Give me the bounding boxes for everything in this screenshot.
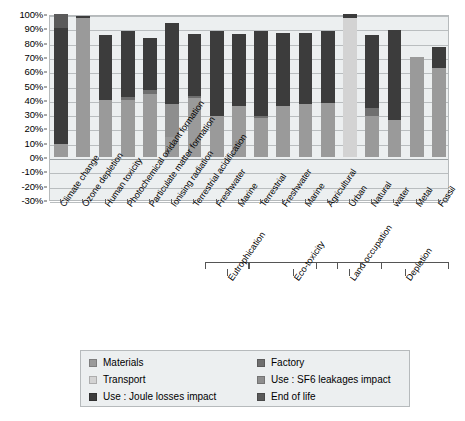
bar-stack bbox=[54, 14, 68, 200]
bar-segment bbox=[432, 68, 446, 157]
x-axis-tick-mark bbox=[82, 199, 83, 203]
x-axis-tick-mark bbox=[105, 199, 106, 203]
legend-item: Use : SF6 leakages impact bbox=[257, 374, 391, 385]
stacked-bar-chart: 100%90%80%70%60%50%40%30%20%10%0%-10%-20… bbox=[0, 0, 465, 421]
x-axis-tick-mark bbox=[349, 199, 350, 203]
bar-segment bbox=[254, 31, 268, 115]
bar-segment bbox=[343, 14, 357, 18]
bar-segment bbox=[388, 30, 402, 120]
bar-segment bbox=[343, 18, 357, 157]
bar-segment bbox=[143, 94, 157, 157]
y-axis-tick-mark bbox=[44, 15, 47, 16]
y-axis-tick-label: 30% bbox=[25, 110, 43, 120]
x-axis-tick-mark bbox=[393, 199, 394, 203]
y-axis-tick-mark bbox=[44, 186, 47, 187]
bar-stack bbox=[321, 14, 335, 200]
legend-swatch-icon bbox=[257, 393, 265, 401]
x-axis-tick-mark bbox=[416, 199, 417, 203]
y-axis-tick-mark bbox=[44, 29, 47, 30]
bar-segment bbox=[165, 23, 179, 105]
legend-row: TransportUse : SF6 leakages impact bbox=[89, 373, 409, 390]
legend-label: Factory bbox=[271, 357, 304, 368]
y-axis-tick-label: 90% bbox=[25, 25, 43, 35]
y-axis-tick-label: 100% bbox=[20, 10, 44, 20]
bar-segment bbox=[432, 47, 446, 68]
bar-segment bbox=[54, 144, 68, 157]
bar-segment bbox=[76, 16, 90, 18]
bar-segment bbox=[321, 103, 335, 157]
bar-stack bbox=[410, 14, 424, 200]
y-axis-tick-mark bbox=[44, 143, 47, 144]
y-axis-tick-label: 50% bbox=[25, 82, 43, 92]
y-axis-tick-mark bbox=[44, 129, 47, 130]
bar-segment bbox=[410, 57, 424, 157]
x-axis-tick-mark bbox=[216, 199, 217, 203]
y-axis-tick-label: -10% bbox=[22, 168, 43, 178]
bar-segment bbox=[388, 120, 402, 157]
y-axis-tick-label: -30% bbox=[22, 196, 43, 206]
y-axis-tick-label: 10% bbox=[25, 139, 43, 149]
x-axis-tick-mark bbox=[438, 199, 439, 203]
y-axis-tick-label: 0% bbox=[30, 153, 43, 163]
legend-label: Use : Joule losses impact bbox=[103, 391, 216, 402]
x-axis-tick-mark bbox=[282, 199, 283, 203]
x-axis-tick-mark bbox=[305, 199, 306, 203]
y-axis: 100%90%80%70%60%50%40%30%20%10%0%-10%-20… bbox=[0, 15, 47, 201]
bar-stack bbox=[432, 14, 446, 200]
chart-legend: MaterialsFactory TransportUse : SF6 leak… bbox=[80, 350, 410, 407]
bar-segment bbox=[188, 96, 202, 99]
legend-label: End of life bbox=[271, 391, 315, 402]
x-axis-tick-mark bbox=[260, 199, 261, 203]
bar-segment bbox=[121, 31, 135, 97]
bar-segment bbox=[254, 116, 268, 119]
bar-stack bbox=[254, 14, 268, 200]
bar-stack bbox=[388, 14, 402, 200]
legend-row: Use : Joule losses impactEnd of life bbox=[89, 390, 409, 407]
bar-segment bbox=[121, 97, 135, 100]
y-axis-tick-mark bbox=[44, 172, 47, 173]
bar-segment bbox=[299, 104, 313, 157]
legend-item: Transport bbox=[89, 374, 145, 385]
x-axis-tick-mark bbox=[238, 199, 239, 203]
y-axis-tick-label: -20% bbox=[22, 182, 43, 192]
bar-segment bbox=[254, 118, 268, 157]
y-axis-tick-mark bbox=[44, 201, 47, 202]
legend-item: Use : Joule losses impact bbox=[89, 391, 216, 402]
x-axis-tick-mark bbox=[149, 199, 150, 203]
bar-segment bbox=[365, 35, 379, 108]
legend-item: Factory bbox=[257, 357, 304, 368]
bar-segment bbox=[99, 35, 113, 99]
bar-segment bbox=[76, 18, 90, 157]
legend-row: MaterialsFactory bbox=[89, 356, 409, 373]
x-axis-tick-mark bbox=[371, 199, 372, 203]
legend-label: Use : SF6 leakages impact bbox=[271, 374, 391, 385]
x-axis-tick-mark bbox=[171, 199, 172, 203]
bar-segment bbox=[232, 34, 246, 106]
legend-swatch-icon bbox=[257, 359, 265, 367]
legend-label: Transport bbox=[103, 374, 145, 385]
group-bracket bbox=[360, 262, 449, 269]
y-axis-tick-label: 80% bbox=[25, 39, 43, 49]
x-axis-tick-mark bbox=[127, 199, 128, 203]
y-axis-tick-mark bbox=[44, 100, 47, 101]
legend-item: End of life bbox=[257, 391, 315, 402]
x-axis-tick-mark bbox=[60, 199, 61, 203]
y-axis-tick-mark bbox=[44, 72, 47, 73]
legend-swatch-icon bbox=[89, 393, 97, 401]
y-axis-tick-mark bbox=[44, 43, 47, 44]
bar-segment bbox=[121, 100, 135, 157]
y-axis-tick-mark bbox=[44, 57, 47, 58]
bar-segment bbox=[365, 116, 379, 157]
legend-swatch-icon bbox=[89, 376, 97, 384]
bar-segment bbox=[188, 34, 202, 96]
legend-swatch-icon bbox=[257, 376, 265, 384]
y-axis-tick-label: 40% bbox=[25, 96, 43, 106]
group-brackets: EutrophicationEco-toxicityLand occupatio… bbox=[49, 262, 449, 352]
x-axis-tick-mark bbox=[327, 199, 328, 203]
legend-label: Materials bbox=[103, 357, 144, 368]
legend-swatch-icon bbox=[89, 359, 97, 367]
bar-segment bbox=[276, 33, 290, 106]
bar-segment bbox=[210, 31, 224, 115]
bar-segment bbox=[54, 14, 68, 28]
y-axis-tick-mark bbox=[44, 115, 47, 116]
